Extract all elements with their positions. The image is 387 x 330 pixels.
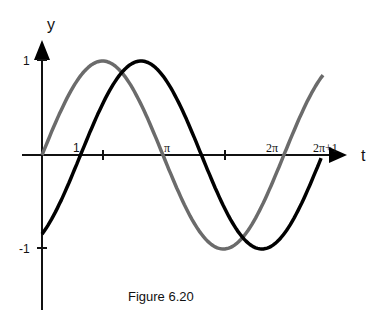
figure-caption: Figure 6.20: [128, 289, 194, 304]
x-ticks: 1 π 2π 2π+1: [73, 141, 338, 160]
y-tick-label: -1: [19, 242, 30, 256]
x-tick-label: 2π: [266, 141, 278, 155]
x-tick-label: 1: [73, 141, 80, 155]
y-tick-label: 1: [23, 54, 30, 68]
x-tick-label: 2π+1: [313, 141, 338, 155]
x-axis-label: t: [361, 147, 366, 164]
x-tick-label: π: [164, 141, 170, 155]
y-axis-label: y: [47, 16, 55, 33]
chart-canvas: y t 1 -1 1 π 2π 2π+1: [0, 0, 387, 330]
y-axis-arrow-icon: [34, 40, 50, 60]
